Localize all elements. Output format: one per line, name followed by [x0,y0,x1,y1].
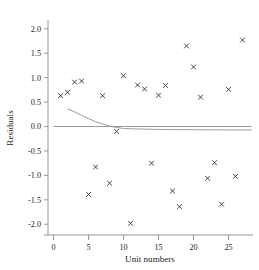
y-tick-label: -0.5 [28,147,41,156]
data-point-marker [93,165,98,170]
data-point-marker [65,90,70,95]
data-point-marker [149,161,154,166]
y-axis-title: Residuals [5,110,15,146]
data-point-marker [240,38,245,43]
reference-lines-group [54,109,252,130]
y-tick-label: -2.0 [28,220,41,229]
residuals-scatter-figure: 2.01.51.00.50.0-0.5-1.0-1.5-2.0 Residual… [0,0,259,270]
data-point-marker [86,192,91,197]
y-tick-label: 2.0 [31,25,41,34]
y-tick-labels: 2.01.51.00.50.0-0.5-1.0-1.5-2.0 [28,25,41,229]
data-points-group [58,38,245,226]
x-tick-marks [54,235,229,240]
data-point-marker [170,189,175,194]
y-tick-label: 0.0 [31,122,41,131]
x-tick-label: 0 [52,243,56,252]
data-point-marker [163,83,168,88]
data-point-marker [142,87,147,92]
data-point-marker [156,93,161,98]
y-tick-label: 1.5 [31,49,41,58]
x-axis: 0510152025 Unit numbers [44,235,253,264]
data-point-marker [128,221,133,226]
x-tick-label: 5 [87,243,91,252]
x-tick-label: 10 [119,243,127,252]
plot-canvas: 2.01.51.00.50.0-0.5-1.0-1.5-2.0 Residual… [0,0,259,270]
x-tick-label: 20 [189,243,197,252]
data-point-marker [177,204,182,209]
y-tick-label: 1.0 [31,74,41,83]
y-tick-marks [44,29,48,224]
data-point-marker [79,79,84,84]
data-point-marker [219,202,224,207]
data-point-marker [184,44,189,49]
data-point-marker [191,65,196,70]
x-tick-labels: 0510152025 [52,243,233,252]
data-point-marker [121,73,126,78]
data-point-marker [100,93,105,98]
data-point-marker [107,181,112,186]
data-point-marker [114,129,119,134]
x-tick-label: 25 [224,243,232,252]
y-tick-label: -1.0 [28,171,41,180]
data-point-marker [135,83,140,88]
data-point-marker [226,87,231,92]
y-tick-label: -1.5 [28,196,41,205]
data-point-marker [233,174,238,179]
y-axis: 2.01.51.00.50.0-0.5-1.0-1.5-2.0 Residual… [5,20,48,235]
data-point-marker [212,160,217,165]
x-axis-title: Unit numbers [125,254,175,264]
x-tick-label: 15 [154,243,162,252]
data-point-marker [198,95,203,100]
data-point-marker [205,176,210,181]
y-tick-label: 0.5 [31,98,41,107]
data-point-marker [72,80,77,85]
data-point-marker [58,93,63,98]
